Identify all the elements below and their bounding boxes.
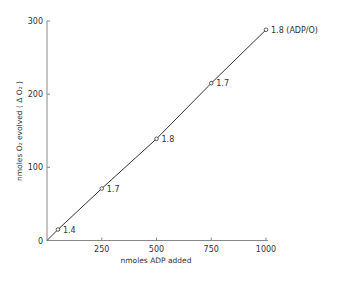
- x-tick-label: 1000: [256, 245, 276, 254]
- y-axis-label: nmoles O₂ evolved ( Δ O₂ ): [15, 81, 24, 181]
- data-point-label: 1.7: [107, 185, 120, 194]
- data-point-marker: [209, 81, 213, 85]
- data-point-label: 1.8 (ADP/O): [271, 26, 318, 35]
- y-tick-label: 200: [28, 90, 43, 99]
- data-line: [47, 30, 266, 241]
- axes: [47, 21, 268, 241]
- x-axis-label: nmoles ADP added: [121, 256, 192, 265]
- chart: 01002003002505007501000 1.41.71.81.71.8 …: [0, 0, 338, 281]
- data-point-marker: [155, 137, 159, 141]
- y-tick-label: 0: [38, 237, 43, 246]
- data-point-marker: [56, 228, 60, 232]
- data-point-label: 1.7: [216, 79, 229, 88]
- y-tick-label: 100: [28, 163, 43, 172]
- axis-ticks: 01002003002505007501000: [28, 17, 276, 254]
- x-tick-label: 500: [149, 245, 164, 254]
- data-point-label: 1.8: [162, 135, 175, 144]
- data-point-label: 1.4: [63, 226, 76, 235]
- data-series: 1.41.71.81.71.8 (ADP/O): [47, 26, 318, 241]
- y-tick-label: 300: [28, 17, 43, 26]
- data-point-marker: [100, 187, 104, 191]
- x-tick-label: 750: [204, 245, 219, 254]
- x-tick-label: 250: [94, 245, 109, 254]
- data-point-marker: [264, 28, 268, 32]
